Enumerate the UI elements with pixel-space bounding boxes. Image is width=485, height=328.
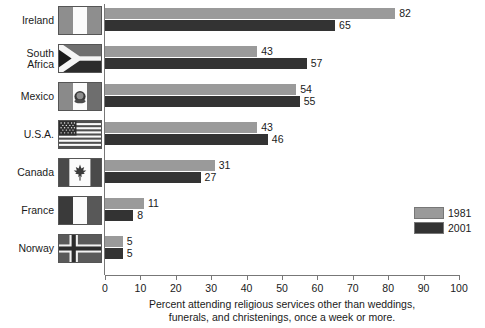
x-axis-caption-line-2: funerals, and christenings, once a week … <box>105 311 459 324</box>
bar-1981 <box>105 236 123 247</box>
x-tick-label: 20 <box>170 282 182 294</box>
chart-row: Norway 55 <box>0 230 485 268</box>
bar-value-label: 46 <box>272 134 284 145</box>
x-tick-mark <box>424 275 425 280</box>
x-tick-label: 10 <box>135 282 147 294</box>
x-tick-mark <box>459 275 460 280</box>
bars-group: 4357 <box>105 40 460 78</box>
bars-group: 3127 <box>105 154 460 192</box>
south-africa-flag <box>58 44 102 73</box>
x-tick-label: 30 <box>205 282 217 294</box>
country-label-usa: U.S.A. <box>2 116 54 154</box>
bar-value-label: 43 <box>261 122 273 133</box>
bar-value-label: 27 <box>205 172 217 183</box>
bar-2001 <box>105 96 300 107</box>
bar-1981 <box>105 46 257 57</box>
bar-value-label: 8 <box>137 210 143 221</box>
bars-group: 118 <box>105 192 460 230</box>
bars-group: 5455 <box>105 78 460 116</box>
country-label-france: France <box>2 192 54 230</box>
chart-legend: 19812001 <box>414 206 480 236</box>
bar-chart: Ireland 8265South Africa 4357Mexico 5455… <box>0 0 485 328</box>
bar-value-label: 31 <box>219 160 231 171</box>
chart-row: Mexico 5455 <box>0 78 485 116</box>
bar-value-label: 43 <box>261 46 273 57</box>
bars-group: 55 <box>105 230 460 268</box>
legend-item: 2001 <box>414 221 480 235</box>
canada-flag <box>58 158 102 187</box>
ireland-flag <box>58 6 102 35</box>
chart-row: U.S.A. 4346 <box>0 116 485 154</box>
x-tick-mark <box>105 275 106 280</box>
bar-2001 <box>105 134 268 145</box>
chart-row: France 118 <box>0 192 485 230</box>
x-tick-label: 100 <box>450 282 468 294</box>
bar-1981 <box>105 198 144 209</box>
bar-1981 <box>105 8 395 19</box>
bar-1981 <box>105 84 296 95</box>
bar-value-label: 5 <box>127 248 133 259</box>
country-label-south-africa: South Africa <box>2 40 54 78</box>
x-tick-mark <box>317 275 318 280</box>
bar-value-label: 54 <box>300 84 312 95</box>
france-flag <box>58 196 102 225</box>
x-tick-mark <box>176 275 177 280</box>
x-tick-label: 60 <box>312 282 324 294</box>
bar-value-label: 55 <box>304 96 316 107</box>
bar-2001 <box>105 210 133 221</box>
legend-label-2001: 2001 <box>448 222 471 234</box>
x-axis-caption-line-1: Percent attending religious services oth… <box>105 298 459 311</box>
x-tick-label: 0 <box>102 282 108 294</box>
bar-value-label: 11 <box>148 198 159 209</box>
country-label-norway: Norway <box>2 230 54 268</box>
chart-row: South Africa 4357 <box>0 40 485 78</box>
bar-1981 <box>105 122 257 133</box>
bars-group: 4346 <box>105 116 460 154</box>
x-tick-label: 80 <box>382 282 394 294</box>
bars-group: 8265 <box>105 2 460 40</box>
mexico-flag <box>58 82 102 111</box>
bar-value-label: 65 <box>339 20 351 31</box>
x-tick-mark <box>140 275 141 280</box>
bar-2001 <box>105 58 307 69</box>
country-label-mexico: Mexico <box>2 78 54 116</box>
legend-item: 1981 <box>414 206 480 220</box>
bar-value-label: 5 <box>127 236 133 247</box>
value-axis-line <box>104 4 105 275</box>
x-tick-mark <box>211 275 212 280</box>
x-tick-mark <box>388 275 389 280</box>
x-tick-label: 40 <box>241 282 253 294</box>
x-tick-mark <box>247 275 248 280</box>
x-axis-caption: Percent attending religious services oth… <box>105 298 459 324</box>
legend-swatch-1981 <box>414 207 444 219</box>
legend-label-1981: 1981 <box>448 207 471 219</box>
x-tick-mark <box>282 275 283 280</box>
bar-1981 <box>105 160 215 171</box>
bar-2001 <box>105 172 201 183</box>
usa-flag <box>58 120 102 149</box>
bar-2001 <box>105 20 335 31</box>
x-tick-label: 70 <box>347 282 359 294</box>
x-tick-label: 50 <box>276 282 288 294</box>
bar-value-label: 57 <box>311 58 323 69</box>
x-tick-mark <box>353 275 354 280</box>
bar-value-label: 82 <box>399 8 411 19</box>
country-label-ireland: Ireland <box>2 2 54 40</box>
chart-row: Ireland 8265 <box>0 2 485 40</box>
x-tick-label: 90 <box>418 282 430 294</box>
chart-row: Canada 3127 <box>0 154 485 192</box>
bar-2001 <box>105 248 123 259</box>
legend-swatch-2001 <box>414 222 444 234</box>
country-label-canada: Canada <box>2 154 54 192</box>
norway-flag <box>58 234 102 263</box>
